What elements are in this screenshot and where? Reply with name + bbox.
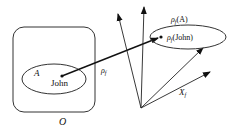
set-o-box — [13, 27, 95, 112]
image-john-dot — [159, 35, 162, 38]
diagram-canvas: O A John ρf ρf(A) ρf(John) Xf — [0, 0, 232, 130]
axis-arrow-1 — [118, 14, 141, 108]
axis-arrow-4 — [141, 72, 210, 108]
image-john-label: ρf(John) — [166, 33, 193, 43]
axis-arrow-2 — [141, 7, 144, 108]
subset-a-label: A — [33, 68, 40, 78]
mapping-arrow — [62, 38, 158, 76]
set-o-label: O — [59, 116, 66, 127]
mapping-label: ρf — [100, 66, 108, 76]
element-john-label: John — [51, 78, 69, 88]
image-set-label: ρf(A) — [170, 15, 188, 25]
axis-arrow-3 — [141, 48, 203, 108]
space-x-label: Xf — [178, 87, 188, 98]
